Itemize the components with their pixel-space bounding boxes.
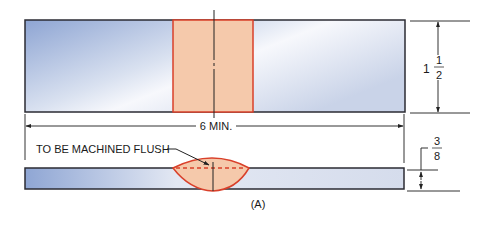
weld-zone-top	[173, 20, 253, 112]
side-view	[25, 158, 404, 191]
thickness-dimension: 3 8	[407, 135, 460, 191]
machined-flush-callout: TO BE MACHINED FLUSH	[36, 143, 209, 165]
weld-joint-diagram: 1 1 2 6 MIN. TO BE MACHINED FLUSH 3 8 (A…	[0, 0, 491, 235]
height-whole: 1	[423, 62, 430, 76]
thickness-numerator: 3	[434, 135, 440, 147]
figure-caption: (A)	[251, 198, 266, 210]
callout-text: TO BE MACHINED FLUSH	[36, 143, 170, 155]
length-dimension: 6 MIN.	[25, 114, 404, 163]
length-label: 6 MIN.	[200, 120, 232, 132]
top-view	[25, 10, 405, 118]
thickness-denominator: 8	[434, 150, 440, 162]
height-numerator: 1	[436, 54, 442, 66]
height-denominator: 2	[436, 69, 442, 81]
height-dimension: 1 1 2	[410, 21, 470, 113]
